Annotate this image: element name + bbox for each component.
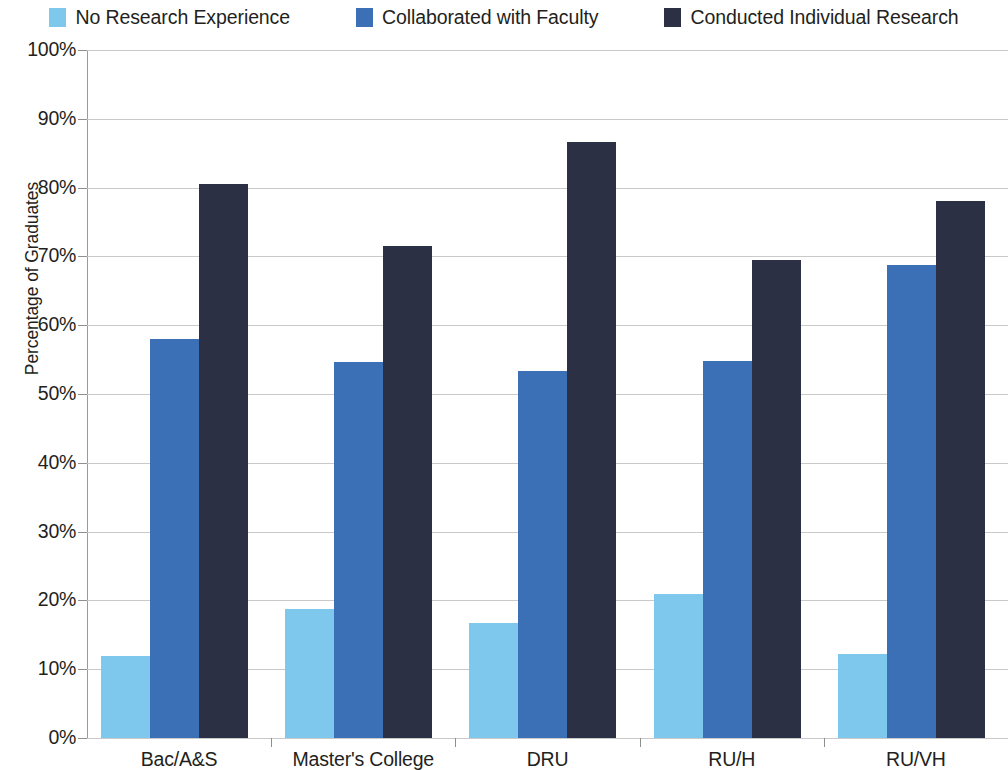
legend-swatch-icon	[49, 8, 66, 27]
bar[interactable]	[518, 371, 567, 738]
x-axis-tick-label: Master's College	[271, 748, 455, 770]
x-axis-tick-mark	[824, 738, 825, 747]
bar[interactable]	[703, 361, 752, 738]
x-axis-tick-label: RU/VH	[824, 748, 1008, 770]
y-axis-tick-mark	[78, 463, 87, 464]
y-axis-tick-mark	[78, 600, 87, 601]
y-axis-tick-mark	[78, 669, 87, 670]
bar-chart: No Research Experience Collaborated with…	[0, 0, 1008, 770]
bar[interactable]	[567, 142, 616, 738]
bar[interactable]	[383, 246, 432, 738]
y-axis-tick-label: 60%	[0, 315, 76, 334]
bar[interactable]	[150, 339, 199, 738]
bar-group	[455, 50, 639, 738]
legend-label: Collaborated with Faculty	[382, 7, 598, 27]
legend-label: No Research Experience	[75, 7, 290, 27]
x-axis-tick-label: DRU	[455, 748, 639, 770]
x-axis-tick-label: Bac/A&S	[87, 748, 271, 770]
legend-item-no-research-experience[interactable]: No Research Experience	[49, 7, 290, 27]
bar[interactable]	[334, 362, 383, 738]
bar[interactable]	[887, 265, 936, 738]
y-axis-tick-mark	[78, 50, 87, 51]
y-axis-tick-mark	[78, 325, 87, 326]
y-axis-tick-label: 80%	[0, 178, 76, 197]
legend-item-conducted-individual-research[interactable]: Conducted Individual Research	[664, 7, 958, 27]
x-axis-tick-mark	[640, 738, 641, 747]
y-axis-tick-label: 100%	[0, 40, 76, 59]
y-axis-tick-label: 20%	[0, 590, 76, 609]
x-axis-tick-mark	[455, 738, 456, 747]
y-axis-tick-mark	[78, 532, 87, 533]
y-axis-tick-label: 40%	[0, 453, 76, 472]
legend-item-collaborated-with-faculty[interactable]: Collaborated with Faculty	[356, 7, 598, 27]
y-axis-tick-label: 10%	[0, 659, 76, 678]
bar[interactable]	[936, 201, 985, 738]
legend-swatch-icon	[664, 8, 681, 27]
bar[interactable]	[285, 609, 334, 738]
bar[interactable]	[654, 594, 703, 738]
legend-swatch-icon	[356, 8, 373, 27]
y-axis-tick-mark	[78, 738, 87, 739]
y-axis-tick-mark	[78, 188, 87, 189]
x-axis-tick-mark	[271, 738, 272, 747]
bar-group	[824, 50, 1008, 738]
bar-group	[271, 50, 455, 738]
plot-area	[87, 50, 1008, 738]
bar[interactable]	[199, 184, 248, 738]
y-axis-tick-label: 90%	[0, 109, 76, 128]
bar-group	[640, 50, 824, 738]
y-axis-tick-label: 30%	[0, 522, 76, 541]
y-axis-tick-label: 50%	[0, 384, 76, 403]
y-axis-tick-mark	[78, 256, 87, 257]
bar[interactable]	[752, 260, 801, 738]
y-axis-tick-mark	[78, 394, 87, 395]
y-axis-tick-label: 70%	[0, 246, 76, 265]
bar[interactable]	[469, 623, 518, 738]
x-axis-tick-label: RU/H	[640, 748, 824, 770]
y-axis-tick-label: 0%	[0, 728, 76, 747]
bar[interactable]	[101, 656, 150, 738]
legend-label: Conducted Individual Research	[690, 7, 958, 27]
bar[interactable]	[838, 654, 887, 738]
y-axis-tick-mark	[78, 119, 87, 120]
bar-group	[87, 50, 271, 738]
chart-legend: No Research Experience Collaborated with…	[0, 0, 1008, 34]
x-axis-tick-labels: Bac/A&SMaster's CollegeDRURU/HRU/VH	[87, 748, 1008, 770]
gridline	[87, 738, 1008, 739]
